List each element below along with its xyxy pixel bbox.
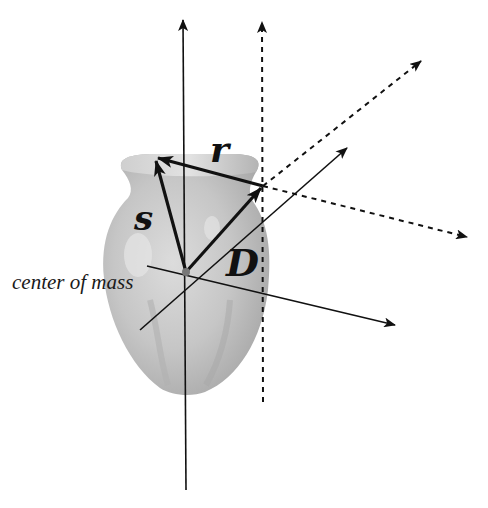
dashed-horizontal-axis (263, 186, 467, 237)
rigid-body-diagram: r s D center of mass (0, 0, 488, 508)
vector-d-label: D (225, 240, 259, 285)
vector-s-label: s (133, 198, 153, 238)
dashed-vertical-axis (262, 22, 263, 402)
center-of-mass-label: center of mass (12, 270, 133, 294)
dashed-diagonal-axis (263, 61, 421, 186)
center-of-mass-point (182, 268, 190, 276)
vector-r-label: r (210, 128, 232, 170)
translated-frame-axes (262, 22, 467, 402)
